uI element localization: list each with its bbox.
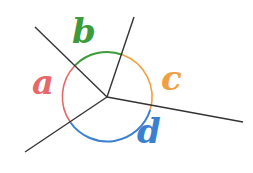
angle-label-a: a: [32, 62, 54, 102]
angle-label-d: d: [137, 111, 161, 151]
angle-diagram: a b c d: [0, 0, 253, 173]
ray-top: [107, 17, 134, 97]
ray-right: [107, 97, 243, 122]
ray-lower-left: [25, 97, 107, 152]
angle-arc-a: [62, 65, 75, 122]
angle-label-c: c: [161, 58, 182, 98]
angle-label-b: b: [72, 11, 96, 51]
angle-arc-b: [75, 52, 122, 65]
